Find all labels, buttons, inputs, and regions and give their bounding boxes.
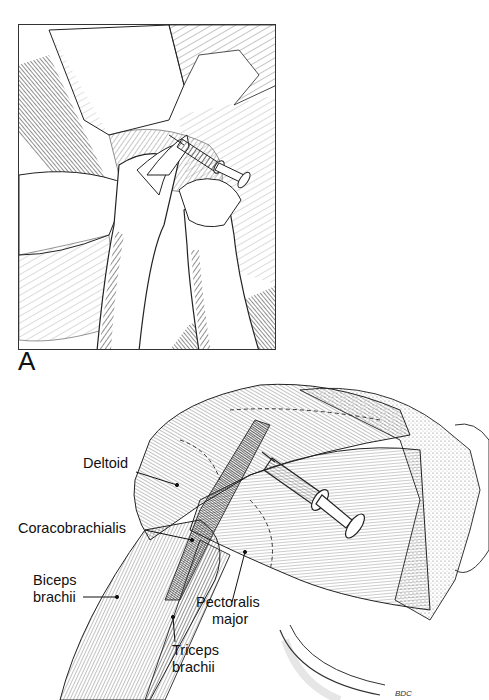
artist-signature: BDC — [395, 689, 412, 698]
panel-a-label: A — [18, 348, 35, 374]
label-pectoralis-line2: major — [212, 611, 248, 628]
label-coracobrachialis: Coracobrachialis — [18, 520, 126, 537]
panel-a-illustration — [18, 24, 276, 350]
label-triceps-line1: Triceps — [172, 642, 219, 659]
panel-b-anatomy: BDC Deltoid Coracobrachialis Biceps brac… — [0, 380, 489, 700]
label-triceps-line2: brachii — [172, 659, 215, 676]
label-biceps-line1: Biceps — [33, 572, 77, 589]
label-deltoid: Deltoid — [83, 455, 128, 472]
injection-scene-drawing — [19, 25, 276, 350]
label-biceps-line2: brachii — [33, 589, 76, 606]
label-pectoralis-line1: Pectoralis — [196, 594, 260, 611]
shoulder-muscle-drawing: BDC — [0, 380, 489, 700]
